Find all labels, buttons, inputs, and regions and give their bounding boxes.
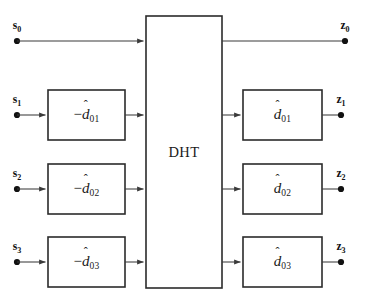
output-terminal-z3 (338, 259, 344, 265)
dht-block (146, 16, 222, 288)
output-terminal-z0 (342, 38, 348, 44)
left-block-neg-d01 (48, 90, 125, 140)
left-block-neg-d02 (48, 164, 125, 214)
output-terminal-z1 (338, 112, 344, 118)
figure-canvas: DHT s0 s1 s2 s3 z0 z1 z2 z3 −ˆd01 −ˆd02 … (0, 0, 366, 307)
right-block-d02 (243, 164, 322, 214)
left-block-neg-d03 (48, 237, 125, 287)
right-block-d01 (243, 90, 322, 140)
block-diagram (0, 0, 366, 307)
output-terminal-z2 (338, 186, 344, 192)
right-block-d03 (243, 237, 322, 287)
